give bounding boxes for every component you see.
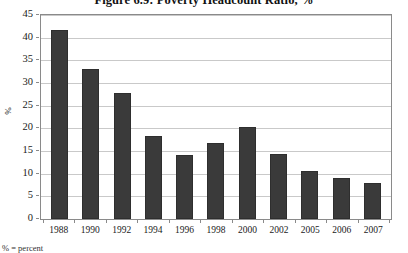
bar	[145, 136, 162, 219]
y-axis-tick-label: 20	[0, 122, 36, 132]
bar-slot	[325, 15, 356, 219]
bar	[301, 171, 318, 220]
x-axis-tick-mark	[389, 219, 390, 223]
x-axis-tick-label: 1988	[43, 224, 74, 238]
bar	[176, 155, 193, 219]
x-axis-tick-label: 2002	[263, 224, 294, 238]
y-axis-tick-mark	[36, 195, 39, 196]
x-axis-tick-label: 1998	[200, 224, 231, 238]
bar	[270, 154, 287, 219]
y-axis-tick-mark	[36, 173, 39, 174]
x-axis-tick-mark	[326, 219, 327, 223]
y-axis-tick-mark	[36, 150, 39, 151]
y-axis-tick-label: 45	[0, 9, 36, 19]
x-axis-tick-mark	[358, 219, 359, 223]
y-axis-tick-label: 5	[0, 190, 36, 200]
x-axis-tick-mark	[232, 219, 233, 223]
x-axis-tick-mark	[43, 219, 44, 223]
bar	[82, 69, 99, 219]
x-axis-tick-label: 1994	[137, 224, 168, 238]
gridline	[41, 219, 391, 220]
plot-area	[40, 14, 392, 220]
y-axis-tick-label: 25	[0, 100, 36, 110]
y-axis-tick-label: 0	[0, 213, 36, 223]
x-axis-tick-label: 2000	[232, 224, 263, 238]
bar	[239, 127, 256, 219]
y-axis-tick-mark	[36, 105, 39, 106]
y-axis-tick-label: 10	[0, 168, 36, 178]
y-axis-tick-mark	[36, 127, 39, 128]
x-axis-tick-mark	[137, 219, 138, 223]
bar	[333, 178, 350, 219]
x-axis-tick-mark	[200, 219, 201, 223]
x-axis-tick-label: 2006	[326, 224, 357, 238]
chart-title: Figure 6.9: Poverty Headcount Ratio, %	[0, 0, 408, 8]
bar-slot	[232, 15, 263, 219]
x-axis-tick-label: 1992	[106, 224, 137, 238]
x-axis-tick-label: 1996	[169, 224, 200, 238]
y-axis-tick-labels: 454035302520151050	[0, 14, 36, 220]
y-axis-tick-label: 40	[0, 32, 36, 42]
y-axis-tick-label: 35	[0, 54, 36, 64]
bar-slot	[44, 15, 75, 219]
x-axis-tick-mark	[74, 219, 75, 223]
bar-slot	[357, 15, 388, 219]
bar-slot	[263, 15, 294, 219]
y-axis-tick-mark	[36, 37, 39, 38]
bar	[51, 30, 68, 219]
bar-slot	[75, 15, 106, 219]
bar-series	[41, 15, 391, 219]
y-axis-tick-mark	[36, 218, 39, 219]
x-axis-tick-label: 2007	[358, 224, 389, 238]
y-axis-tick-mark	[36, 59, 39, 60]
y-axis-tick-label: 15	[0, 145, 36, 155]
bar	[364, 183, 381, 219]
x-axis-tick-mark	[169, 219, 170, 223]
bar-slot	[138, 15, 169, 219]
bar	[207, 143, 224, 219]
x-axis-tick-labels: 1988199019921994199619982000200220052006…	[40, 224, 392, 238]
bar-slot	[200, 15, 231, 219]
y-axis-tick-label: 30	[0, 77, 36, 87]
bar-slot	[107, 15, 138, 219]
x-axis-tick-mark	[263, 219, 264, 223]
y-axis-tick-mark	[36, 14, 39, 15]
bar-slot	[294, 15, 325, 219]
bar-slot	[169, 15, 200, 219]
bar	[114, 93, 131, 219]
y-axis-tick-mark	[36, 82, 39, 83]
x-axis-tick-mark	[106, 219, 107, 223]
x-axis-tick-mark	[295, 219, 296, 223]
x-axis-tick-label: 1990	[74, 224, 105, 238]
x-axis-tick-label: 2005	[295, 224, 326, 238]
footnote: % = percent	[2, 243, 43, 253]
